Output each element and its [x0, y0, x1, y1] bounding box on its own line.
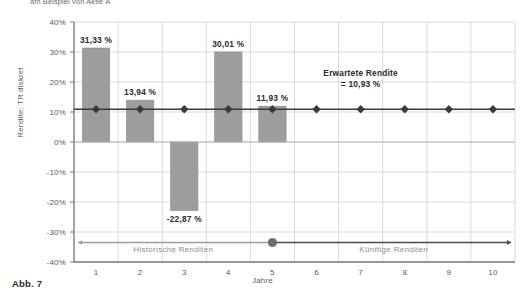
bar-value-label: 30,01 %	[212, 39, 244, 49]
y-tick-label: 10%	[49, 108, 66, 117]
x-tick-label: 7	[358, 268, 363, 277]
x-tick-label: 6	[314, 268, 319, 277]
timeline-arrow-head	[507, 240, 511, 245]
x-tick-label: 4	[226, 268, 231, 277]
x-tick-label: 3	[182, 268, 187, 277]
bar-value-label: -22,87 %	[167, 214, 202, 224]
y-tick-label: -10%	[47, 168, 66, 177]
y-tick-label: -20%	[47, 198, 66, 207]
timeline-start-cap	[78, 240, 82, 244]
x-tick-label: 5	[270, 268, 275, 277]
chart-plot: 31,33 %13,94 %-22,87 %30,01 %11,93 % Erw…	[0, 0, 525, 304]
bar-series	[82, 48, 286, 211]
y-tick-label: 40%	[49, 18, 66, 27]
bar-value-label: 13,94 %	[124, 87, 156, 97]
y-tick-label: -30%	[47, 228, 66, 237]
bar	[171, 142, 198, 211]
annotation-historical-band: Historische Renditen	[133, 245, 213, 254]
x-tick-label: 9	[447, 268, 452, 277]
y-tick-label: 0%	[54, 138, 66, 147]
annotation-expected-return-line1: Erwartete Rendite	[323, 68, 398, 78]
figure-caption: Abb. 7	[12, 278, 42, 289]
x-tick-label: 1	[94, 268, 99, 277]
annotation-expected-return-line2: = 10,93 %	[341, 79, 381, 89]
bar	[215, 52, 242, 142]
y-tick-label: 20%	[49, 78, 66, 87]
x-tick-label: 2	[138, 268, 143, 277]
axes	[70, 22, 515, 262]
annotation-future-band: Künftige Renditen	[359, 245, 428, 254]
x-tick-label: 10	[488, 268, 498, 277]
bar	[82, 48, 109, 142]
y-tick-label: -40%	[47, 258, 66, 267]
bar-value-label: 11,93 %	[257, 93, 289, 103]
x-tick-label: 8	[402, 268, 407, 277]
bar-value-label: 31,33 %	[80, 35, 112, 45]
timeline-now-marker	[268, 238, 277, 247]
y-tick-label: 30%	[49, 48, 66, 57]
